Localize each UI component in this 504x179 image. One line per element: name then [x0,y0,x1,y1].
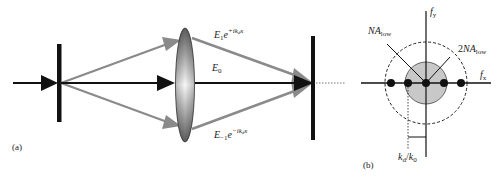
incident-arrow-icon [41,75,58,91]
fy-axis-label: fy [430,7,436,19]
panel-a [13,28,345,142]
panel-a-label: (a) [12,143,22,152]
optical-diagram: (a) E1e+ikdx E0 E−1e−ikdx (b) fy fx NAlo… [0,0,504,179]
order-dot-minus1 [404,79,412,87]
order-dot-minus2 [387,79,395,87]
detector [311,36,315,140]
two-na-low-label: 2NAlow [458,44,486,56]
fx-axis-label: fx [480,70,486,82]
label-e-minus1: E−1e−ikdx [214,128,247,142]
order-dot-plus2 [457,79,465,87]
order-zero-arrow-icon [157,75,175,91]
spacing-label: kd/k0 [398,152,417,164]
order-dot-zero [422,79,430,87]
panel-b-label: (b) [363,161,374,170]
grating [57,44,62,122]
order-dot-plus1 [440,79,448,87]
label-e-zero: E0 [212,63,222,75]
na-low-label: NAlow [368,26,391,38]
order-plus1-beam-2 [192,38,300,77]
label-e-plus1: E1e+ikdx [214,28,243,42]
order-minus1-beam-1 [61,83,170,123]
diagram-canvas [0,0,504,179]
order-plus1-beam-1 [61,43,170,83]
order-minus1-beam-2 [192,89,300,129]
lens-shade [176,28,195,142]
